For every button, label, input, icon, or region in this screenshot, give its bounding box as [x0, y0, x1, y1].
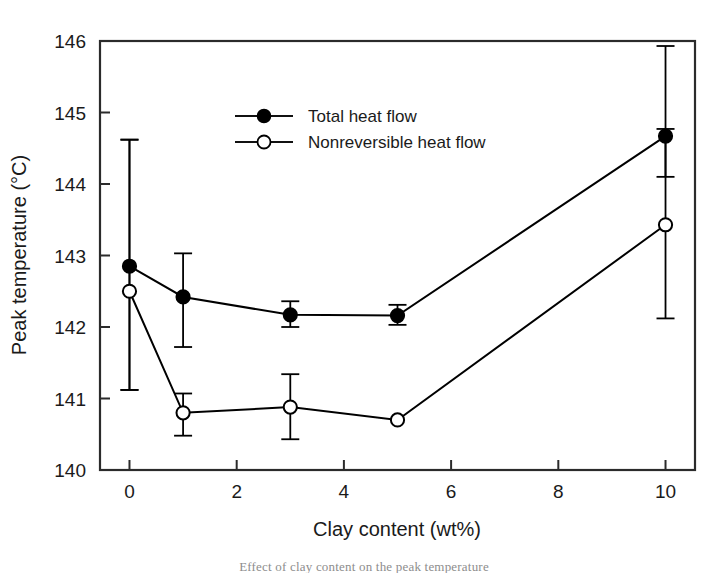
- data-point-open-circle: [659, 218, 672, 231]
- legend-label-total-heat-flow: Total heat flow: [308, 107, 417, 126]
- x-tick-label: 8: [553, 481, 564, 502]
- x-tick-label: 10: [655, 481, 676, 502]
- legend-marker-open-circle: [258, 136, 271, 149]
- x-axis-title: Clay content (wt%): [313, 518, 481, 540]
- y-tick-label: 146: [54, 31, 86, 52]
- data-point-open-circle: [123, 285, 136, 298]
- y-tick-label: 145: [54, 103, 86, 124]
- y-tick-label: 144: [54, 174, 86, 195]
- legend-marker-filled-circle: [258, 110, 271, 123]
- figure-caption: Effect of clay content on the peak tempe…: [0, 559, 728, 573]
- data-point-open-circle: [284, 400, 297, 413]
- chart-figure: 140141142143144145146 0246810 Clay conte…: [0, 0, 728, 573]
- data-point-filled-circle: [283, 308, 297, 322]
- y-tick-label: 142: [54, 317, 86, 338]
- x-tick-label: 6: [446, 481, 457, 502]
- x-tick-label: 2: [231, 481, 242, 502]
- data-point-open-circle: [176, 406, 189, 419]
- x-tick-label: 0: [124, 481, 135, 502]
- data-point-filled-circle: [176, 290, 190, 304]
- x-tick-label: 4: [339, 481, 350, 502]
- y-tick-label: 141: [54, 389, 86, 410]
- data-point-open-circle: [391, 413, 404, 426]
- data-point-filled-circle: [391, 309, 405, 323]
- y-axis-title: Peak temperature (°C): [8, 155, 30, 355]
- y-tick-label: 143: [54, 246, 86, 267]
- legend-label-nonreversible-heat-flow: Nonreversible heat flow: [308, 133, 486, 152]
- plot-area-frame: [100, 41, 695, 470]
- y-tick-label: 140: [54, 460, 86, 481]
